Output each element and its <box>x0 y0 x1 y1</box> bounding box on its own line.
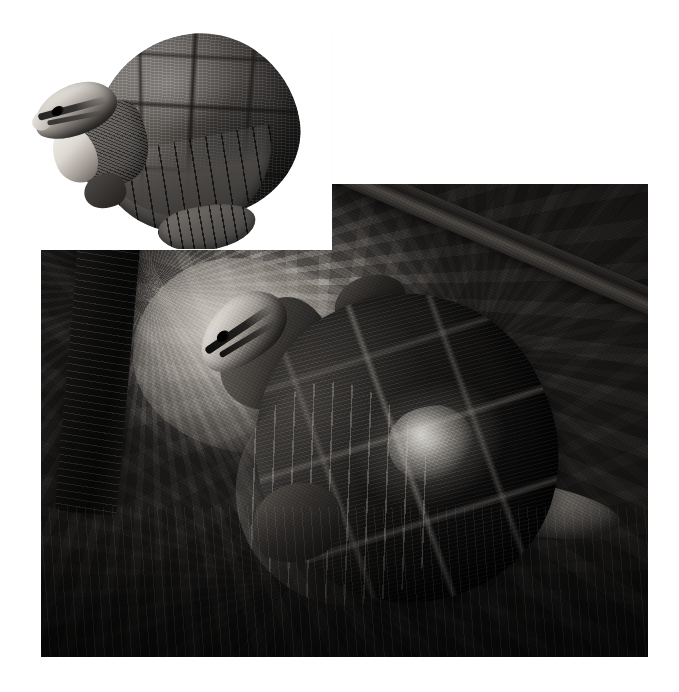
inset-photo: Three-quarter view of a turtle with an e… <box>6 28 332 250</box>
habitat-photo: Overhead view of a dark-shelled turtle r… <box>41 184 648 657</box>
page-title: Turtle photographic plate <box>0 0 1 1</box>
inset-panel-edge <box>6 28 332 250</box>
page-canvas: Overhead view of a dark-shelled turtle r… <box>0 0 679 692</box>
water-sheen <box>41 507 648 657</box>
water-ripples <box>41 507 648 657</box>
